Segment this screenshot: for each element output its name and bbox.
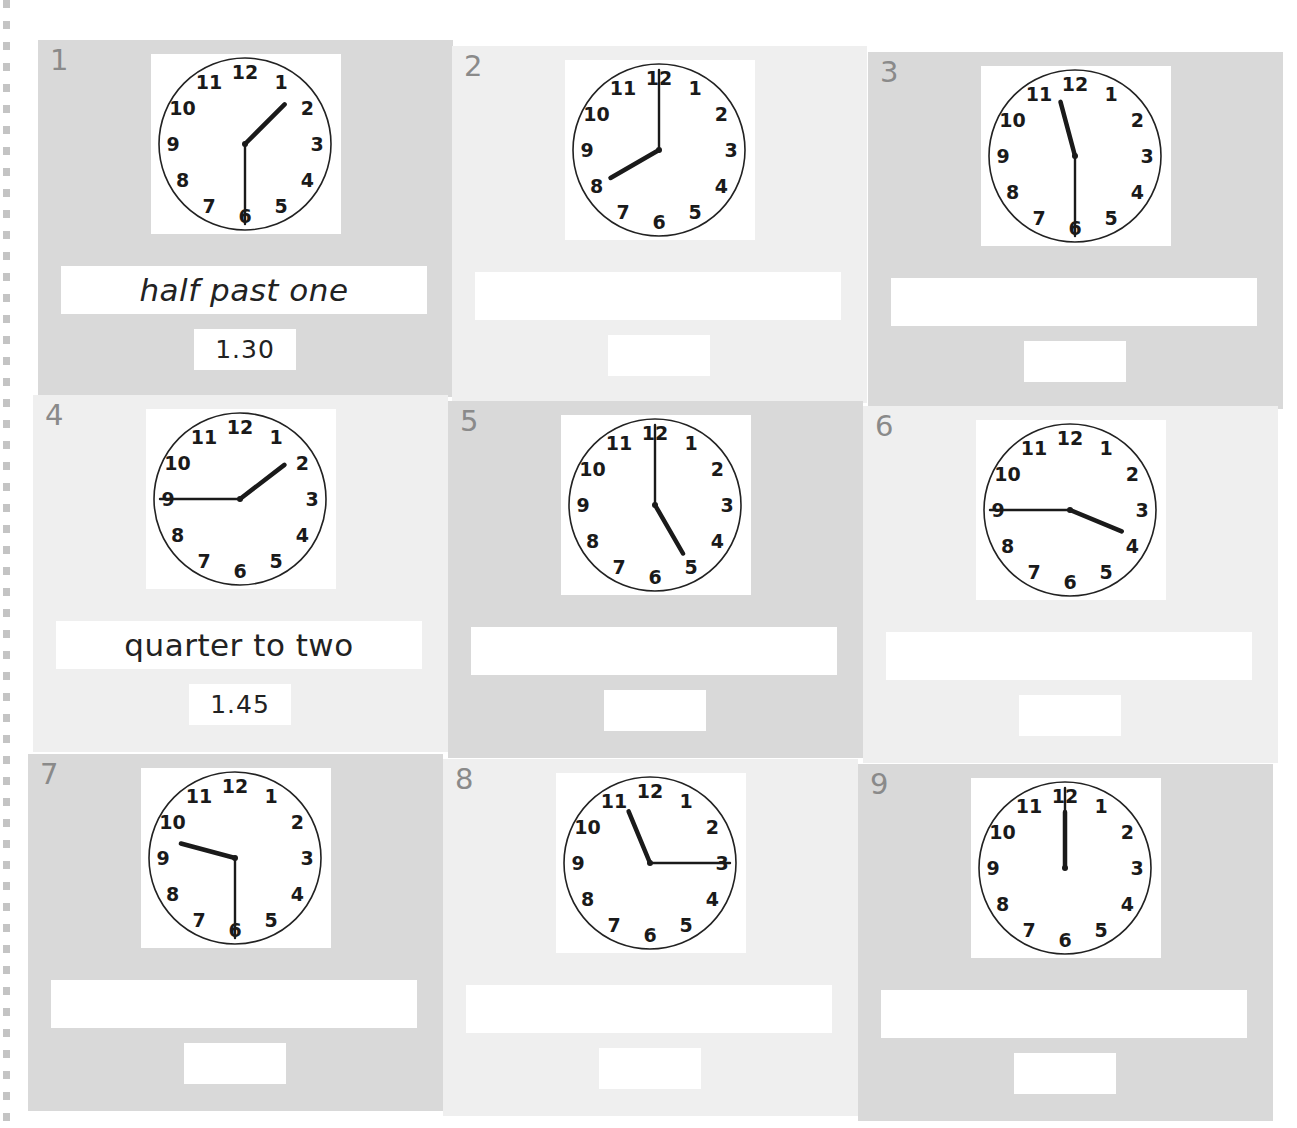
svg-text:2: 2 [1121, 821, 1134, 843]
svg-text:7: 7 [616, 201, 629, 223]
svg-text:9: 9 [156, 847, 169, 869]
svg-text:9: 9 [986, 857, 999, 879]
svg-text:8: 8 [1001, 535, 1014, 557]
svg-text:1: 1 [1099, 437, 1112, 459]
clock-face-image: 121234567891011 [981, 66, 1171, 246]
svg-text:7: 7 [607, 914, 620, 936]
svg-text:12: 12 [1057, 427, 1083, 449]
svg-text:11: 11 [606, 432, 632, 454]
clock-face-image: 121234567891011 [141, 768, 331, 948]
svg-text:3: 3 [300, 847, 313, 869]
svg-text:5: 5 [688, 201, 701, 223]
clock-cell-9: 9 121234567891011 [858, 764, 1273, 1121]
svg-text:8: 8 [586, 530, 599, 552]
digital-time-answer[interactable] [604, 690, 706, 731]
svg-text:5: 5 [264, 909, 277, 931]
digital-time-answer[interactable] [184, 1043, 286, 1084]
clock-icon: 121234567891011 [151, 54, 341, 234]
svg-text:5: 5 [274, 195, 287, 217]
time-in-words-answer[interactable] [466, 985, 832, 1033]
clock-icon: 121234567891011 [976, 420, 1166, 600]
svg-text:11: 11 [1026, 83, 1052, 105]
svg-text:3: 3 [305, 488, 318, 510]
svg-text:1: 1 [1094, 795, 1107, 817]
digital-time-answer[interactable] [608, 335, 710, 376]
clock-face-image: 121234567891011 [561, 415, 751, 595]
svg-text:4: 4 [296, 524, 309, 546]
digital-time-answer[interactable]: 1.45 [189, 684, 291, 725]
svg-text:8: 8 [171, 524, 184, 546]
question-number: 3 [880, 54, 898, 90]
question-number: 2 [464, 48, 482, 84]
svg-text:2: 2 [301, 97, 314, 119]
svg-text:2: 2 [1131, 109, 1144, 131]
svg-text:5: 5 [1104, 207, 1117, 229]
clock-icon: 121234567891011 [556, 773, 746, 953]
svg-text:9: 9 [576, 494, 589, 516]
svg-text:2: 2 [715, 103, 728, 125]
time-in-words-answer[interactable] [891, 278, 1257, 326]
svg-text:7: 7 [197, 550, 210, 572]
question-number: 6 [875, 408, 893, 444]
time-in-words-answer[interactable] [51, 980, 417, 1028]
svg-text:4: 4 [1126, 535, 1139, 557]
svg-text:12: 12 [1062, 73, 1088, 95]
svg-text:7: 7 [1022, 919, 1035, 941]
svg-text:3: 3 [1135, 499, 1148, 521]
svg-text:7: 7 [202, 195, 215, 217]
time-in-words-answer[interactable] [886, 632, 1252, 680]
svg-text:10: 10 [164, 452, 190, 474]
svg-text:11: 11 [610, 77, 636, 99]
perforation-margin [3, 0, 10, 1128]
svg-text:2: 2 [706, 816, 719, 838]
question-number: 1 [50, 42, 68, 78]
svg-text:12: 12 [232, 61, 258, 83]
time-in-words-answer[interactable] [881, 990, 1247, 1038]
svg-text:3: 3 [720, 494, 733, 516]
svg-text:1: 1 [269, 426, 282, 448]
svg-text:3: 3 [1130, 857, 1143, 879]
svg-text:9: 9 [996, 145, 1009, 167]
svg-text:5: 5 [1099, 561, 1112, 583]
svg-text:10: 10 [994, 463, 1020, 485]
clock-cell-7: 7 121234567891011 [28, 754, 443, 1111]
clock-icon: 121234567891011 [141, 768, 331, 948]
svg-text:12: 12 [227, 416, 253, 438]
svg-text:5: 5 [684, 556, 697, 578]
svg-text:4: 4 [711, 530, 724, 552]
question-number: 5 [460, 403, 478, 439]
time-in-words-answer[interactable] [475, 272, 841, 320]
svg-text:1: 1 [679, 790, 692, 812]
svg-text:1: 1 [684, 432, 697, 454]
svg-text:4: 4 [291, 883, 304, 905]
clock-icon: 121234567891011 [981, 66, 1171, 246]
svg-text:8: 8 [1006, 181, 1019, 203]
svg-text:10: 10 [169, 97, 195, 119]
svg-text:7: 7 [1032, 207, 1045, 229]
time-in-words-answer[interactable] [471, 627, 837, 675]
svg-text:12: 12 [222, 775, 248, 797]
digital-time-answer[interactable] [1014, 1053, 1116, 1094]
svg-text:10: 10 [989, 821, 1015, 843]
svg-text:10: 10 [579, 458, 605, 480]
svg-text:8: 8 [166, 883, 179, 905]
clock-icon: 121234567891011 [565, 60, 755, 240]
svg-text:6: 6 [648, 566, 661, 588]
svg-text:10: 10 [999, 109, 1025, 131]
svg-text:1: 1 [274, 71, 287, 93]
svg-text:7: 7 [1027, 561, 1040, 583]
digital-time-answer[interactable] [599, 1048, 701, 1089]
svg-text:1: 1 [688, 77, 701, 99]
svg-text:10: 10 [159, 811, 185, 833]
time-in-words-answer[interactable]: quarter to two [56, 621, 422, 669]
digital-time-answer[interactable] [1019, 695, 1121, 736]
digital-time-answer[interactable]: 1.30 [194, 329, 296, 370]
time-in-words-answer[interactable]: half past one [61, 266, 427, 314]
clock-face-image: 121234567891011 [971, 778, 1161, 958]
clock-face-image: 121234567891011 [146, 409, 336, 589]
svg-text:8: 8 [581, 888, 594, 910]
svg-text:5: 5 [269, 550, 282, 572]
svg-text:11: 11 [1016, 795, 1042, 817]
svg-text:6: 6 [1058, 929, 1071, 951]
digital-time-answer[interactable] [1024, 341, 1126, 382]
